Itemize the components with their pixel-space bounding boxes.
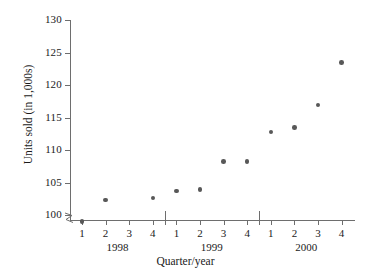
scatter-chart: 100105110115120125130 123412341234199819…	[0, 0, 371, 273]
data-point	[339, 60, 344, 65]
data-point	[80, 219, 85, 224]
data-point	[292, 125, 297, 130]
plot-area	[0, 0, 371, 273]
data-point	[269, 130, 274, 135]
data-point	[221, 159, 226, 164]
x-axis-title: Quarter/year	[0, 255, 371, 268]
data-point	[151, 196, 156, 201]
data-point	[316, 103, 321, 108]
data-point	[245, 159, 250, 164]
data-point	[198, 187, 203, 192]
data-point	[103, 198, 108, 203]
y-axis-title: Units sold (in 1,000s)	[22, 15, 35, 215]
data-point	[174, 189, 179, 194]
